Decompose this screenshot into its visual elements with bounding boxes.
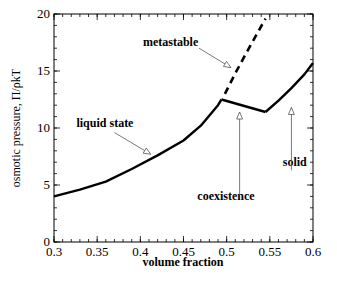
annotation-metastable: metastable (143, 35, 231, 68)
annotation-liquid-state: liquid state (76, 116, 150, 154)
y-tick-label: 0 (44, 234, 51, 249)
x-axis-label: volume fraction (143, 255, 224, 269)
osmotic-pressure-chart: 0.30.350.40.450.50.550.6 05101520 metast… (0, 0, 337, 285)
series-metastable (225, 19, 266, 94)
x-tick-label: 0.6 (305, 244, 322, 259)
annotation-layer: metastableliquid statecoexistencesolid (76, 35, 307, 203)
series-liquid-state (54, 100, 222, 197)
x-tick-label: 0.55 (258, 244, 281, 259)
annotation-label: solid (283, 155, 307, 169)
annotation-solid: solid (283, 107, 307, 170)
y-tick-label: 5 (44, 177, 51, 192)
y-tick-label: 10 (37, 120, 50, 135)
arrowhead-icon (223, 61, 231, 67)
x-tick-label: 0.35 (86, 244, 109, 259)
y-axis-label: osmotic pressure, Π/ρkT (9, 68, 23, 187)
y-tick-labels: 05101520 (37, 6, 50, 249)
annotation-label: liquid state (76, 116, 134, 130)
arrowhead-icon (237, 112, 243, 119)
y-tick-label: 15 (37, 63, 50, 78)
annotation-label: coexistence (197, 189, 255, 203)
annotation-label: metastable (143, 35, 199, 49)
arrowhead-icon (143, 148, 151, 154)
y-tick-label: 20 (37, 6, 50, 21)
arrowhead-icon (288, 107, 294, 114)
series-solid (266, 63, 314, 112)
series-coexistence (222, 100, 266, 113)
annotation-coexistence: coexistence (197, 112, 255, 203)
